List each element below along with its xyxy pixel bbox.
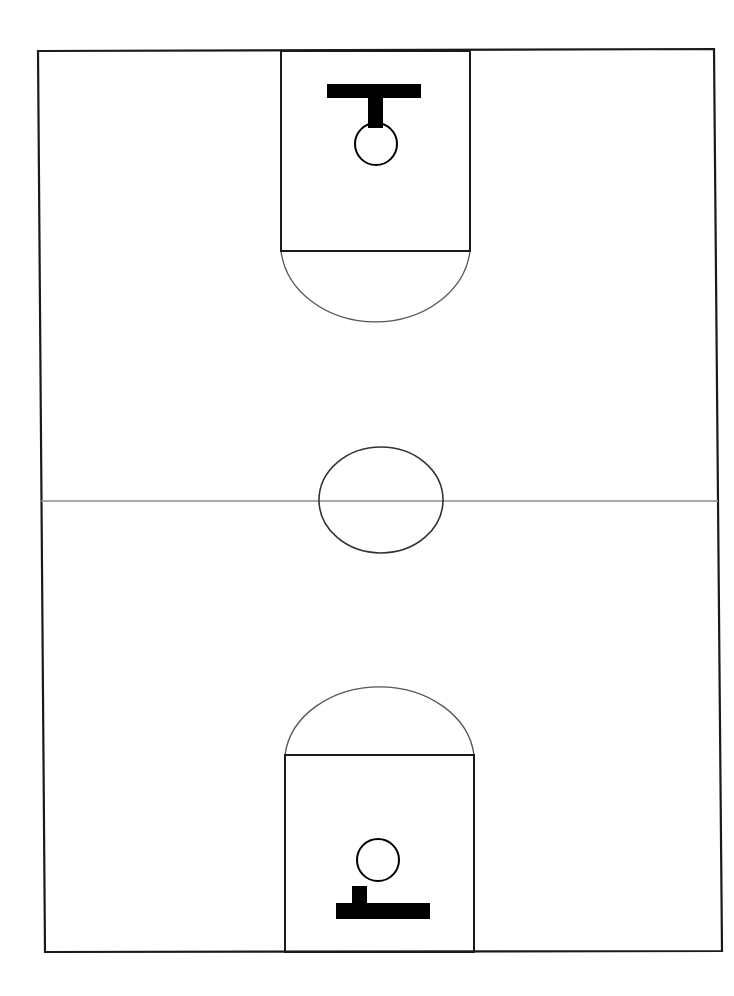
basketball-court-diagram [0,0,734,996]
bottom-backboard [336,903,430,919]
top-backboard [327,84,421,98]
court-svg-canvas [0,0,734,996]
bottom-basket-stem [352,886,367,905]
court-surface [0,0,734,996]
